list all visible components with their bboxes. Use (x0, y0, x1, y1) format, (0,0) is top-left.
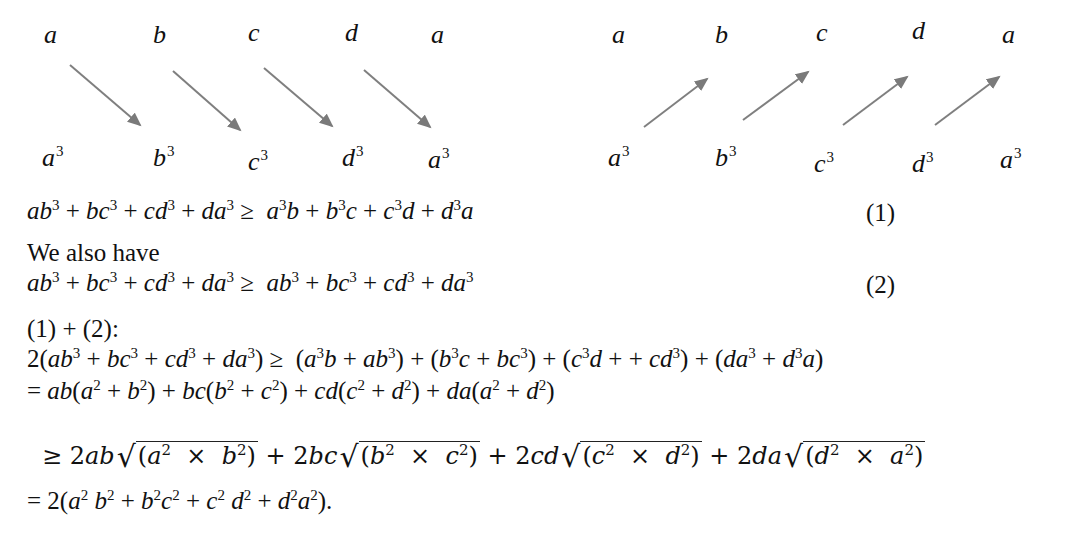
equation-5: ≥ 2ab√(a2 × b2) + 2bc√(b2 × c2) + 2cd√(c… (42, 442, 925, 472)
arrow-icon (935, 77, 999, 125)
sqrt-icon: √(b2 × c2) (337, 442, 479, 472)
sqrt-icon: √(a2 × b2) (115, 442, 258, 472)
arrow-icon (644, 79, 707, 127)
sqrt-icon: √(c2 × d2) (559, 442, 701, 472)
arrow-icon (364, 70, 430, 127)
text-we-also-have: We also have (27, 240, 160, 265)
equation-3: 2(ab3 + bc3 + cd3 + da3) ≥ (a3b + ab3) +… (27, 346, 823, 371)
diagram-arrows (0, 0, 1068, 180)
equation-2: ab3 + bc3 + cd3 + da3 ≥ ab3 + bc3 + cd3 … (27, 270, 474, 295)
equation-6: = 2(a2 b2 + b2c2 + c2 d2 + d2a2). (27, 488, 332, 513)
equation-1: ab3 + bc3 + cd3 + da3 ≥ a3b + b3c + c3d … (27, 198, 474, 223)
arrow-icon (843, 77, 907, 125)
arrow-icon (264, 68, 332, 126)
arrow-icon (70, 65, 140, 125)
equation-number-2: (2) (866, 272, 895, 297)
equation-number-1: (1) (866, 200, 895, 225)
equation-4: = ab(a2 + b2) + bc(b2 + c2) + cd(c2 + d2… (27, 378, 555, 403)
sqrt-icon: √(d2 × a2) (782, 442, 925, 472)
sum-label: (1) + (2): (27, 316, 119, 341)
arrow-icon (173, 71, 240, 130)
arrow-icon (743, 72, 808, 120)
